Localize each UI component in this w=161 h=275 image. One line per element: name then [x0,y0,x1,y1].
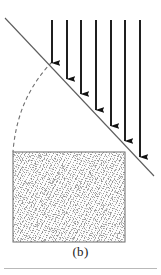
stipple-speck [39,216,40,217]
stipple-speck [43,173,44,174]
stipple-speck [62,223,63,224]
stipple-speck [117,236,118,237]
stipple-speck [102,160,103,161]
stipple-speck [64,180,65,181]
stipple-speck [92,214,93,215]
stipple-speck [37,194,38,195]
stipple-speck [121,154,122,155]
stipple-speck [28,190,29,191]
stipple-speck [106,234,107,235]
stipple-speck [70,204,71,205]
stipple-speck [110,204,111,205]
stipple-speck [62,218,63,219]
stipple-speck [105,222,106,223]
stipple-speck [99,193,100,194]
stipple-speck [61,197,62,198]
stipple-speck [54,229,55,230]
stipple-speck [121,223,122,224]
stipple-speck [98,237,99,238]
stipple-speck [34,210,35,211]
stipple-speck [19,196,20,197]
stipple-speck [42,220,43,221]
stipple-speck [52,189,53,190]
stipple-speck [107,208,108,209]
stipple-speck [20,159,21,160]
stipple-speck [27,202,28,203]
stipple-speck [29,219,30,220]
stipple-speck [78,166,79,167]
stipple-speck [27,189,28,190]
stipple-speck [86,230,87,231]
stipple-speck [117,226,118,227]
stipple-speck [50,176,51,177]
stipple-speck [95,179,96,180]
stipple-speck [26,162,27,163]
stipple-speck [23,238,24,239]
stipple-speck [45,184,46,185]
stipple-speck [79,215,80,216]
stipple-speck [91,182,92,183]
stipple-speck [45,210,46,211]
stipple-speck [35,209,36,210]
stipple-speck [43,193,44,194]
stipple-speck [118,195,119,196]
stipple-speck [39,234,40,235]
stipple-speck [90,211,91,212]
stipple-speck [41,157,42,158]
stipple-speck [97,221,98,222]
stipple-speck [89,200,90,201]
stipple-speck [73,222,74,223]
stipple-speck [51,165,52,166]
stipple-speck [59,213,60,214]
stipple-speck [79,226,80,227]
stipple-speck [82,200,83,201]
stipple-speck [106,174,107,175]
stipple-speck [19,153,20,154]
stipple-speck [38,164,39,165]
stipple-speck [30,240,31,241]
stipple-speck [73,172,74,173]
stipple-speck [49,161,50,162]
stipple-speck [87,181,88,182]
stipple-speck [111,197,112,198]
stipple-speck [58,199,59,200]
stipple-speck [58,231,59,232]
stipple-speck [22,194,23,195]
stipple-speck [103,165,104,166]
stipple-speck [97,196,98,197]
stipple-speck [107,195,108,196]
stipple-speck [64,177,65,178]
stipple-speck [103,188,104,189]
stipple-speck [37,188,38,189]
stipple-speck [38,230,39,231]
stipple-speck [107,167,108,168]
stipple-speck [65,233,66,234]
stipple-speck [115,201,116,202]
stipple-speck [49,215,50,216]
stipple-speck [27,227,28,228]
stipple-speck [115,224,116,225]
stipple-speck [73,210,74,211]
stipple-speck [104,236,105,237]
stipple-speck [117,154,118,155]
stipple-speck [15,213,16,214]
stipple-speck [107,192,108,193]
stipple-speck [115,180,116,181]
stipple-speck [106,224,107,225]
stipple-speck [52,159,53,160]
stipple-speck [23,167,24,168]
stipple-speck [104,239,105,240]
stipple-speck [83,195,84,196]
stipple-speck [30,193,31,194]
stipple-speck [32,218,33,219]
stipple-speck [120,191,121,192]
stipple-speck [32,164,33,165]
stipple-speck [61,202,62,203]
stipple-speck [70,168,71,169]
stipple-speck [56,228,57,229]
stipple-speck [49,159,50,160]
stipple-speck [96,155,97,156]
stipple-speck [101,231,102,232]
stipple-speck [88,162,89,163]
stipple-speck [18,240,19,241]
